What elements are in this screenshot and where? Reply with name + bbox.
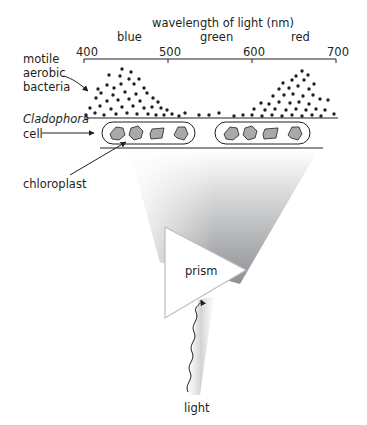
tick-label-400: 400 [76, 45, 98, 59]
tick-label-700: 700 [327, 45, 349, 59]
cell-label-line2: cell [23, 127, 43, 141]
axis-title: wavelength of light (nm) [152, 16, 294, 30]
prism-label: prism [185, 264, 217, 278]
bacteria-label-line2: aerobic [23, 66, 65, 80]
cell-label-line1: Cladophora [23, 112, 89, 126]
cladophora-cell-1 [102, 122, 195, 144]
bacteria-label-line3: bacteria [23, 80, 70, 94]
engelmann-experiment-diagram: wavelength of light (nm) blue green red … [0, 0, 367, 425]
band-label-red: red [291, 30, 310, 44]
bacteria-dots [84, 67, 335, 117]
tick-label-500: 500 [159, 45, 181, 59]
chloroplast-label: chloroplast [23, 177, 86, 191]
bacteria-label-line1: motile [23, 52, 59, 66]
light-label: light [184, 401, 210, 415]
chloroplast-arrow-icon [70, 142, 126, 175]
cladophora-cell-2 [215, 122, 310, 144]
wavelength-axis [84, 59, 336, 63]
band-label-blue: blue [117, 30, 142, 44]
chloroplast-icon [263, 128, 278, 139]
chloroplast-icon [150, 128, 164, 139]
tick-label-600: 600 [243, 45, 265, 59]
band-label-green: green [200, 30, 233, 44]
